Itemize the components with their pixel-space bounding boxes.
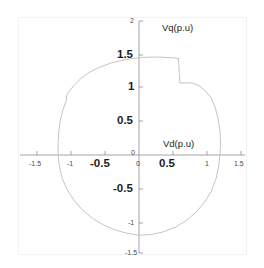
y-tick-label-1: 1 [128, 81, 134, 93]
y-tick-label-2: 2 [130, 17, 134, 24]
y-tick-label-neg0-5: -0.5 [113, 183, 133, 195]
y-tick-label-zero: 0 [131, 149, 135, 156]
plot-graphics [0, 0, 264, 268]
y-tick-label-neg1: -1 [128, 219, 134, 226]
y-axis-title: Vq(p.u) [162, 23, 193, 33]
y-tick-label-1-5: 1.5 [117, 49, 133, 61]
y-tick-label-neg1-5: -1.5 [125, 249, 137, 256]
x-tick-label-neg1-5: -1.5 [29, 160, 41, 167]
x-tick-label-neg1: -1 [67, 160, 73, 167]
y-tick-marks [139, 21, 143, 253]
x-tick-label-zero: 0 [136, 160, 140, 167]
figure-canvas: Vq(p.u) Vd(p.u) -1.5 -1 -0.5 0 0.5 1 1.5… [0, 0, 264, 268]
x-tick-label-1-5: 1.5 [234, 160, 244, 167]
x-tick-label-0-5: 0.5 [159, 158, 175, 170]
x-tick-label-neg0-5: -0.5 [90, 158, 110, 170]
x-axis-title: Vd(p.u) [163, 139, 194, 149]
x-tick-label-1: 1 [205, 160, 209, 167]
y-tick-label-0-5: 0.5 [117, 115, 133, 127]
